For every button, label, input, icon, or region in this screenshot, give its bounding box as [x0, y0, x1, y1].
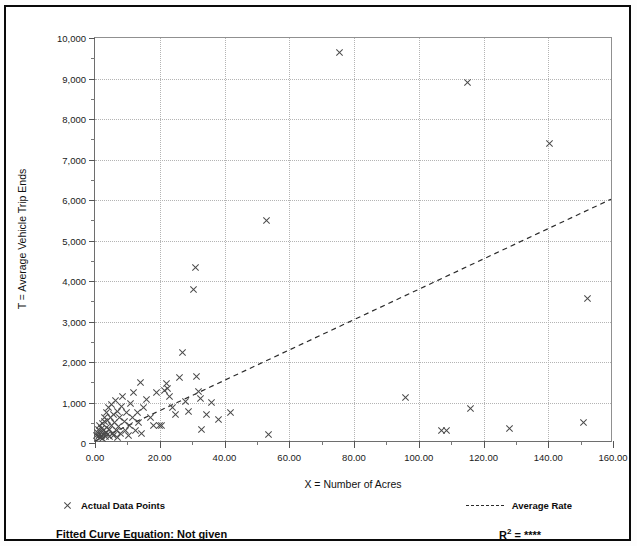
x-tick-label: 160.00 [598, 452, 627, 463]
chart-figure: T = Average Vehicle Trip Ends 01,0002,00… [0, 0, 637, 546]
legend-label-average-rate: Average Rate [512, 500, 572, 511]
r-squared-equals: = [511, 529, 524, 541]
x-tick-label: 40.00 [213, 452, 237, 463]
y-axis-title: T = Average Vehicle Trip Ends [16, 169, 28, 310]
r-squared-value: **** [524, 529, 541, 541]
x-tick-minor [581, 441, 582, 445]
y-tick-label: 8,000 [62, 114, 86, 125]
x-tick [95, 441, 96, 448]
x-marker-icon [63, 501, 72, 510]
x-tick [160, 441, 161, 448]
x-tick-label: 60.00 [277, 452, 301, 463]
r-squared-text: R2 = **** [499, 527, 541, 541]
x-tick-minor [192, 441, 193, 445]
x-tick-label: 140.00 [534, 452, 563, 463]
y-tick-label: 6,000 [62, 195, 86, 206]
x-tick-label: 120.00 [469, 452, 498, 463]
fitted-curve-equation-text: Fitted Curve Equation: Not given [56, 528, 227, 540]
x-tick [548, 441, 549, 448]
y-tick-label: 7,000 [62, 154, 86, 165]
y-tick-label: 1,000 [62, 397, 86, 408]
dashed-line-icon [466, 505, 504, 506]
y-tick-label: 10,000 [57, 33, 86, 44]
x-tick [225, 441, 226, 448]
figure-border-frame: T = Average Vehicle Trip Ends 01,0002,00… [4, 5, 631, 541]
y-tick-label: 0 [81, 438, 86, 449]
x-tick-minor [257, 441, 258, 445]
y-tick-label: 4,000 [62, 276, 86, 287]
legend-average-rate: Average Rate [466, 500, 572, 511]
x-tick-minor [322, 441, 323, 445]
plot-area: 01,0002,0003,0004,0005,0006,0007,0008,00… [94, 37, 612, 442]
average-rate-trendline [95, 38, 611, 441]
x-axis-title: X = Number of Acres [304, 478, 401, 490]
y-tick-label: 3,000 [62, 316, 86, 327]
x-tick-minor [127, 441, 128, 445]
legend-label-actual-data-points: Actual Data Points [81, 500, 165, 511]
y-tick-label: 9,000 [62, 73, 86, 84]
x-tick-label: 80.00 [342, 452, 366, 463]
x-tick-minor [386, 441, 387, 445]
x-tick-minor [451, 441, 452, 445]
y-tick-label: 5,000 [62, 235, 86, 246]
x-tick-minor [516, 441, 517, 445]
legend-actual-data-points: Actual Data Points [63, 500, 165, 511]
x-tick [613, 441, 614, 448]
x-tick [484, 441, 485, 448]
x-tick-label: 20.00 [148, 452, 172, 463]
x-tick-label: 100.00 [404, 452, 433, 463]
x-tick [419, 441, 420, 448]
y-tick-label: 2,000 [62, 357, 86, 368]
r-squared-symbol: R [499, 529, 507, 541]
x-tick-label: 0.00 [86, 452, 105, 463]
x-tick [289, 441, 290, 448]
x-tick [354, 441, 355, 448]
